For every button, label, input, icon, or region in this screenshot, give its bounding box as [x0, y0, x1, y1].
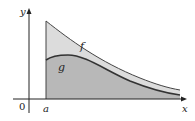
a-label: a [43, 103, 49, 114]
diagram-svg: y x 0 a f g [0, 0, 195, 121]
x-axis-arrow-icon [181, 97, 187, 102]
curve-g-label: g [58, 61, 65, 74]
region-under-g [46, 55, 180, 99]
y-axis-arrow-icon [27, 8, 32, 14]
area-between-curves-diagram: y x 0 a f g [0, 0, 195, 121]
x-axis-label: x [182, 103, 188, 114]
origin-label: 0 [19, 101, 25, 112]
y-axis-label: y [19, 6, 26, 17]
